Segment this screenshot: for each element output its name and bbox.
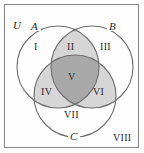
region-label-VII: VII (64, 110, 79, 120)
region-label-V: V (68, 72, 76, 82)
region-label-II: II (67, 42, 74, 52)
region-label-III: III (100, 42, 111, 52)
region-label-VI: VI (93, 87, 104, 97)
set-label-B: B (109, 21, 116, 32)
universe-label: U (13, 20, 21, 31)
region-label-I: I (34, 42, 38, 52)
set-label-C: C (70, 131, 78, 142)
venn-diagram-figure: U A B C I II III IV V VI VII VIII (0, 0, 144, 153)
region-label-VIII: VIII (113, 133, 131, 143)
region-label-IV: IV (41, 87, 52, 97)
set-label-A: A (31, 21, 38, 32)
